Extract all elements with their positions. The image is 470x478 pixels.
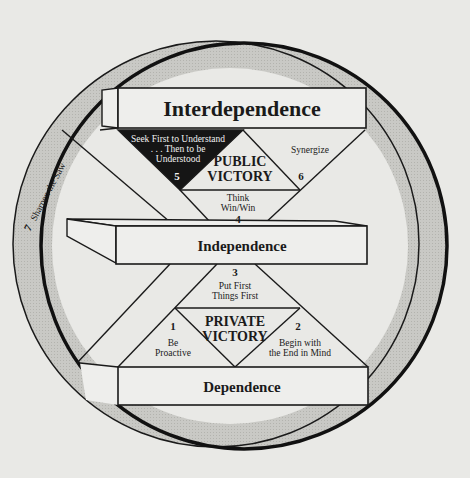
habit-6-number: 6 [298,170,304,182]
private-victory-line-1: PRIVATE [205,314,265,329]
habit-4-line-1: Think [227,193,250,203]
habit-6-label: Synergize [291,145,329,155]
habit-3-number: 3 [232,266,238,278]
habit-1-line-2: Proactive [155,348,191,358]
habit-5-line-2: . . . Then to be [151,144,206,154]
habit-1-number: 1 [170,320,176,332]
habit-5-line-1: Seek First to Understand [131,134,225,144]
habit-2-line-1: Begin with [279,338,321,348]
habit-3-line-1: Put First [219,281,252,291]
habit-3-line-2: Things First [212,291,259,301]
habit-2-number: 2 [295,320,301,332]
public-victory-line-1: PUBLIC [214,154,267,169]
habit-4-line-2: Win/Win [221,203,256,213]
habit-5-line-3: Understood [156,154,201,164]
private-victory-line-2: VICTORY [202,329,267,344]
level-independence: Independence [197,238,287,254]
habit-1-line-1: Be [168,338,179,348]
level-interdependence: Interdependence [163,96,321,121]
habit-5-number: 5 [174,170,180,182]
public-victory-line-2: VICTORY [207,169,272,184]
habit-4-number: 4 [235,213,241,225]
level-dependence: Dependence [203,379,281,395]
seven-habits-diagram: Interdependence Independence Dependence … [0,0,470,478]
habit-2-line-2: the End in Mind [269,348,331,358]
